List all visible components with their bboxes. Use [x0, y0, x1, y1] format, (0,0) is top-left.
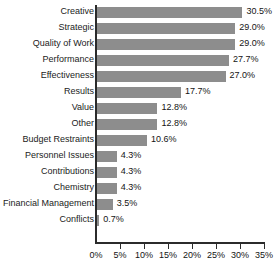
bar-row: Conflicts0.7%	[0, 213, 275, 229]
bar-row: Other12.8%	[0, 117, 275, 133]
value-label: 4.3%	[121, 182, 142, 193]
value-label: 12.8%	[161, 102, 187, 113]
category-label: Chemistry	[2, 182, 94, 193]
category-label: Conflicts	[2, 214, 94, 225]
x-tick-label: 35%	[255, 250, 273, 261]
category-label: Strategic	[2, 22, 94, 33]
x-tick-label: 5%	[113, 250, 126, 261]
category-label: Contributions	[2, 166, 94, 177]
value-label: 30.5%	[246, 6, 272, 17]
value-label: 12.8%	[161, 118, 187, 129]
value-label: 3.5%	[117, 198, 138, 209]
x-tick-mark	[168, 244, 169, 249]
value-label: 29.0%	[239, 38, 265, 49]
x-tick-label: 10%	[135, 250, 153, 261]
x-tick-mark	[216, 244, 217, 249]
bar-row: Chemistry4.3%	[0, 181, 275, 197]
value-label: 29.0%	[239, 22, 265, 33]
x-tick-mark	[120, 244, 121, 249]
category-label: Effectiveness	[2, 70, 94, 81]
x-tick-label: 20%	[183, 250, 201, 261]
value-label: 4.3%	[121, 166, 142, 177]
x-tick-label: 0%	[89, 250, 102, 261]
bar	[96, 103, 157, 114]
bar	[96, 23, 235, 34]
bar-row: Performance27.7%	[0, 53, 275, 69]
bar	[96, 55, 229, 66]
bar	[96, 71, 226, 82]
bar-row: Quality of Work29.0%	[0, 37, 275, 53]
bar	[96, 135, 147, 146]
bar-row: Effectiveness27.0%	[0, 69, 275, 85]
category-label: Personnel Issues	[2, 150, 94, 161]
bar	[96, 87, 181, 98]
category-label: Value	[2, 102, 94, 113]
bar	[96, 119, 157, 130]
bar-row: Value12.8%	[0, 101, 275, 117]
bar	[96, 167, 117, 178]
value-label: 27.0%	[230, 70, 256, 81]
bar	[96, 199, 113, 210]
bar-row: Budget Restraints10.6%	[0, 133, 275, 149]
bar	[96, 183, 117, 194]
bar-row: Results17.7%	[0, 85, 275, 101]
value-label: 0.7%	[103, 214, 124, 225]
category-label: Performance	[2, 54, 94, 65]
value-label: 27.7%	[233, 54, 259, 65]
x-tick-label: 15%	[159, 250, 177, 261]
x-tick-mark	[264, 244, 265, 249]
bar-row: Contributions4.3%	[0, 165, 275, 181]
category-label: Budget Restraints	[2, 134, 94, 145]
bar-row: Personnel Issues4.3%	[0, 149, 275, 165]
category-label: Results	[2, 86, 94, 97]
bar-row: Creative30.5%	[0, 5, 275, 21]
value-label: 10.6%	[151, 134, 177, 145]
plot-area: Creative30.5%Strategic29.0%Quality of Wo…	[0, 0, 275, 264]
value-label: 4.3%	[121, 150, 142, 161]
y-axis-line	[95, 5, 97, 243]
bar-row: Financial Management3.5%	[0, 197, 275, 213]
value-label: 17.7%	[185, 86, 211, 97]
bar-row: Strategic29.0%	[0, 21, 275, 37]
x-tick-label: 25%	[207, 250, 225, 261]
x-tick-label: 30%	[231, 250, 249, 261]
category-label: Quality of Work	[2, 38, 94, 49]
x-tick-mark	[144, 244, 145, 249]
bar-chart: Creative30.5%Strategic29.0%Quality of Wo…	[0, 0, 275, 264]
bar	[96, 7, 242, 18]
x-tick-mark	[192, 244, 193, 249]
category-label: Other	[2, 118, 94, 129]
x-tick-mark	[240, 244, 241, 249]
bar-rows: Creative30.5%Strategic29.0%Quality of Wo…	[0, 5, 275, 229]
category-label: Financial Management	[2, 198, 94, 209]
bar	[96, 39, 235, 50]
category-label: Creative	[2, 6, 94, 17]
bar	[96, 151, 117, 162]
